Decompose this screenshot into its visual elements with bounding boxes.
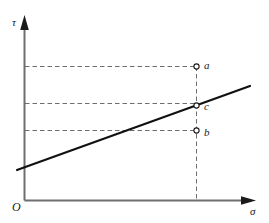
point-b-label: b — [204, 127, 210, 138]
failure-envelope-line — [17, 86, 250, 170]
plot-canvas — [0, 0, 269, 223]
origin-label: O — [12, 201, 21, 213]
point-a-label: a — [204, 60, 210, 71]
stress-strength-diagram: τ σ O a c b — [0, 0, 269, 223]
sigma-axis-label: σ — [250, 206, 255, 217]
point-b-marker — [194, 128, 199, 133]
point-c-label: c — [204, 101, 209, 112]
tau-axis-label: τ — [12, 17, 16, 28]
tau-axis-arrow-icon — [20, 15, 29, 30]
point-a-marker — [194, 64, 199, 69]
sigma-axis-arrow-icon — [241, 196, 256, 205]
point-c-marker — [194, 103, 199, 108]
